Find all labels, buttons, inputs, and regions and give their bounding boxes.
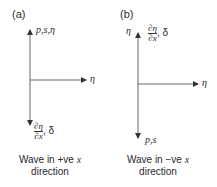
b-caption-line2: direction	[139, 166, 177, 177]
b-up-suffix: , δ	[157, 27, 168, 38]
b-caption: Wave in −ve x direction	[108, 154, 208, 178]
b-caption-prefix: Wave in −ve	[127, 154, 185, 165]
a-down-label: ∂η ∂x , δ	[34, 122, 54, 141]
a-frac-num: ∂η	[34, 122, 43, 131]
b-up-left-label: η	[126, 25, 131, 36]
a-caption-line2: direction	[31, 166, 69, 177]
a-down-suffix: , δ	[43, 125, 54, 136]
a-caption-var: x	[77, 154, 81, 165]
b-frac-num: ∂η	[148, 24, 157, 33]
b-frac-den: ∂x	[148, 34, 156, 43]
b-right-label: η	[202, 77, 207, 88]
a-frac-den: ∂x	[34, 132, 42, 141]
a-up-label: p,s,η	[36, 24, 55, 35]
a-right-label: η	[90, 73, 95, 84]
a-caption: Wave in +ve x direction	[0, 154, 100, 178]
b-up-fraction: ∂η ∂x	[148, 24, 157, 43]
b-down-label: p,s	[145, 134, 156, 145]
a-caption-prefix: Wave in +ve	[19, 154, 77, 165]
b-up-label: ∂η ∂x , δ	[148, 24, 168, 43]
panel-b-label: (b)	[120, 8, 133, 20]
a-down-fraction: ∂η ∂x	[34, 122, 43, 141]
b-caption-var: x	[185, 154, 189, 165]
panel-a-label: (a)	[12, 8, 25, 20]
